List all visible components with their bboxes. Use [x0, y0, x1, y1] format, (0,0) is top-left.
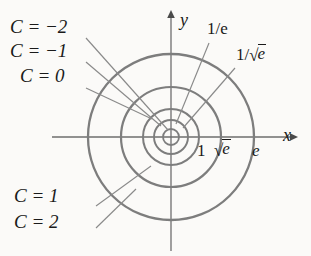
y-axis-arrowhead [167, 10, 175, 18]
x-axis-arrowhead [290, 133, 298, 141]
label-one-over-sqrt-e: 1/√e [236, 45, 266, 63]
label-c-minus-1: C = −1 [10, 41, 67, 60]
label-one-over-e-text: 1/e [207, 19, 228, 38]
leader-line-c-minus2 [86, 38, 168, 130]
leader-line-one-over-sqrt-e [183, 68, 235, 128]
tick-label-sqrt-e: √e [214, 140, 231, 158]
one-over-sqrt-e-prefix: 1/ [236, 45, 249, 64]
tick-label-sqrt-e-radicand: e [222, 139, 231, 157]
tick-label-one: 1 [197, 142, 206, 159]
label-c-one: C = 1 [14, 186, 59, 205]
label-c-zero: C = 0 [20, 66, 65, 85]
tick-label-e: e [252, 142, 260, 159]
leader-line-c-minus1 [86, 62, 161, 126]
label-c-two: C = 2 [14, 212, 59, 231]
axis-label-y: y [180, 11, 188, 29]
label-one-over-e: 1/e [207, 20, 228, 37]
one-over-sqrt-e-radicand: e [258, 44, 267, 62]
label-c-minus-2: C = −2 [10, 17, 67, 36]
axis-label-x: x [283, 126, 291, 144]
